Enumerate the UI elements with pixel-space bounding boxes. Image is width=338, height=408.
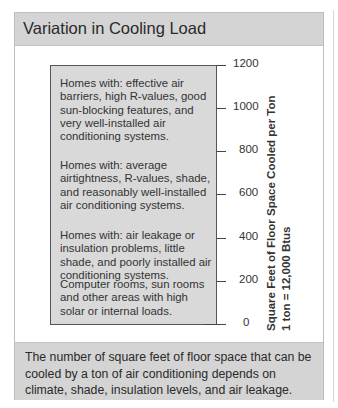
caption-band: The number of square feet of floor space… [15,342,323,400]
tick-400 [217,238,226,239]
band-high-efficiency: Homes with: effective air barriers, high… [60,77,212,143]
band-high-load-areas: Computer rooms, sun rooms and other area… [60,278,212,318]
caption-text: The number of square feet of floor space… [25,349,321,399]
cooling-load-panel: Variation in Cooling Load Homes with: ef… [14,12,324,400]
axis-title-line2: 1 ton = 12,000 Btus [279,91,294,331]
tick-label-1000: 1000 [233,100,259,112]
page-edge-line [333,10,334,402]
panel-header: Variation in Cooling Load [15,13,323,46]
tick-label-400: 400 [239,230,258,242]
band-poor: Homes with: air leakage or insulation pr… [60,229,212,282]
tick-1200 [217,65,226,66]
tick-800 [217,151,226,152]
tick-label-800: 800 [239,143,258,155]
tick-label-0: 0 [243,316,249,328]
axis-title-line1: Square Feet of Floor Space Cooled per To… [264,91,279,331]
tick-200 [217,281,226,282]
panel-title: Variation in Cooling Load [23,19,206,38]
tick-0 [205,324,226,325]
cooling-scale-box: Homes with: effective air barriers, high… [50,65,217,325]
tick-600 [217,194,226,195]
tick-label-600: 600 [239,186,258,198]
tick-label-200: 200 [239,273,258,285]
band-average: Homes with: average airtightness, R-valu… [60,159,212,212]
tick-1000 [217,108,226,109]
axis-title: Square Feet of Floor Space Cooled per To… [264,91,294,331]
tick-label-1200: 1200 [233,57,259,69]
